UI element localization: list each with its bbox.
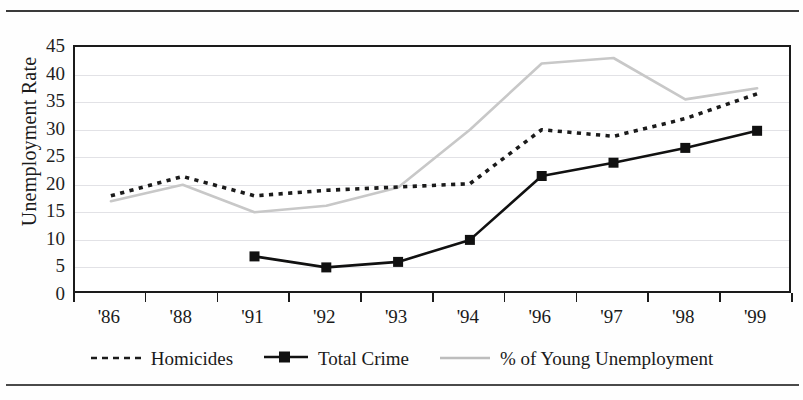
x-tick-mark [432,293,434,302]
x-tick-label: '86 [79,306,139,328]
x-tick-label: '91 [223,306,283,328]
dashed-line-swatch [90,347,142,369]
x-tick-mark [719,293,721,302]
page-bottom-rule [6,384,799,386]
x-tick-mark [791,293,793,302]
y-tick-label: 45 [19,36,65,55]
data-point-marker [321,262,331,272]
legend-item: Total Crime [263,347,409,369]
data-point-marker [537,171,547,181]
y-tick-label: 25 [19,146,65,165]
y-tick-label: 40 [19,63,65,82]
x-tick-label: '99 [725,306,785,328]
plot-area [73,45,791,293]
x-tick-mark [647,293,649,302]
legend-item: % of Young Unemployment [439,347,713,369]
x-tick-label: '93 [366,306,426,328]
y-tick-label: 35 [19,91,65,110]
x-axis: '86'88'91'92'93'94'96'97'98'99 [73,293,791,333]
legend-item: Homicides [90,347,233,369]
y-tick-label: 0 [19,284,65,303]
page-top-rule [6,10,799,12]
solid-gray-line-swatch [439,347,491,369]
x-tick-label: '88 [151,306,211,328]
chart-page: Unemployment Rate 051015202530354045 '86… [0,0,803,400]
line-chart: Unemployment Rate 051015202530354045 '86… [0,22,803,312]
x-tick-mark [73,293,75,302]
data-point-marker [465,235,475,245]
y-tick-label: 20 [19,173,65,192]
solid-line-square-marker-swatch [263,347,309,369]
legend-label: Total Crime [318,349,409,368]
x-tick-label: '92 [294,306,354,328]
data-point-marker [250,251,260,261]
legend-label: % of Young Unemployment [500,349,713,368]
y-tick-label: 5 [19,256,65,275]
data-point-marker [393,257,403,267]
series-layer [75,47,793,295]
y-tick-label: 10 [19,228,65,247]
data-point-marker [680,143,690,153]
x-tick-label: '94 [438,306,498,328]
data-point-marker [609,158,619,168]
x-tick-mark [360,293,362,302]
x-tick-mark [145,293,147,302]
x-tick-mark [217,293,219,302]
x-tick-mark [288,293,290,302]
series-line-of-young-unemployment [111,58,757,212]
chart-legend: HomicidesTotal Crime% of Young Unemploym… [0,340,803,376]
x-tick-mark [576,293,578,302]
x-tick-label: '96 [510,306,570,328]
legend-label: Homicides [151,349,233,368]
y-tick-label: 30 [19,118,65,137]
x-tick-mark [504,293,506,302]
data-point-marker [752,126,762,136]
y-axis-tick-labels: 051015202530354045 [0,45,73,293]
x-tick-label: '97 [582,306,642,328]
series-line-homicides [111,94,757,196]
x-tick-label: '98 [653,306,713,328]
y-tick-label: 15 [19,201,65,220]
